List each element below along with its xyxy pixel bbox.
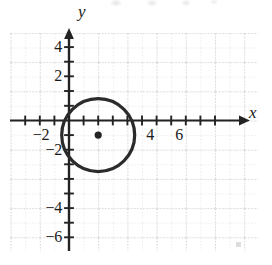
x-tick-label-4: 4 <box>142 126 158 144</box>
y-axis-label: y <box>78 2 86 22</box>
y-tick-label-2: 2 <box>38 67 62 85</box>
y-tick-label-4: 4 <box>38 38 62 56</box>
y-tick-label-neg2: −2 <box>32 141 62 159</box>
y-tick-label-neg6: −6 <box>32 228 62 246</box>
x-tick-label-6: 6 <box>171 126 187 144</box>
circle-center-point <box>95 132 102 139</box>
scan-speck <box>236 242 241 247</box>
y-tick-label-neg4: −4 <box>32 199 62 217</box>
graph-figure: y x −2 4 6 4 2 −2 −4 −6 <box>0 0 272 265</box>
x-axis-label: x <box>249 103 257 123</box>
